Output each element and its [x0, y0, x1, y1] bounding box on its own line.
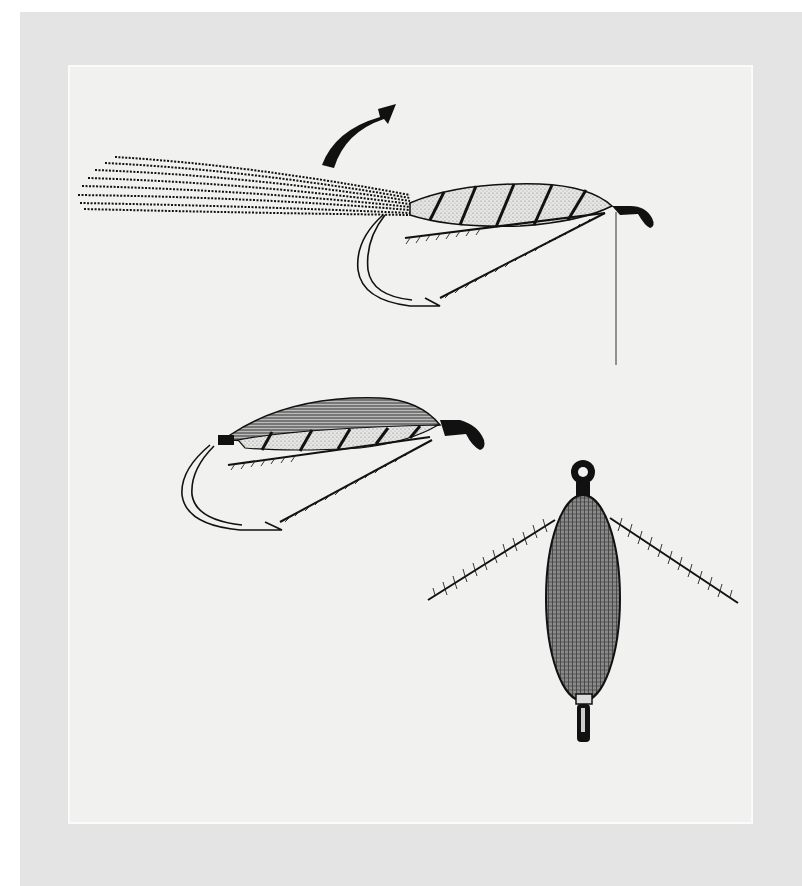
fly-tying-illustration [0, 0, 802, 886]
finished-body [546, 495, 620, 701]
hook-eye [612, 206, 654, 228]
hook-eye [440, 420, 485, 450]
hook [358, 215, 440, 306]
hackle-barbs [406, 219, 590, 298]
fly-stage-3 [428, 460, 738, 742]
fly-stage-2 [182, 398, 485, 530]
fly-stage-1 [78, 157, 654, 365]
hackle [405, 213, 605, 298]
curved-arrow-icon [322, 104, 396, 168]
wing-fibres [78, 157, 410, 215]
hook [182, 445, 282, 530]
